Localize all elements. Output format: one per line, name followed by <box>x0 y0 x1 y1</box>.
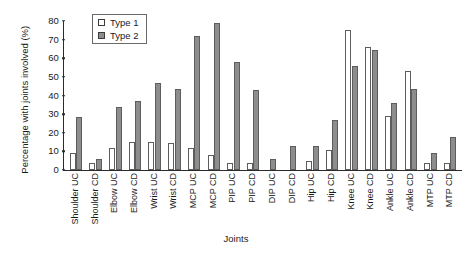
chart-legend: Type 1 Type 2 <box>92 14 147 44</box>
bar-type-2 <box>332 120 338 170</box>
bar-type-2 <box>411 89 417 170</box>
bar-group <box>421 21 441 170</box>
x-axis-tick-label: MCP CD <box>208 173 217 208</box>
bar-type-1 <box>306 161 312 170</box>
legend-swatch-type-1 <box>98 19 105 26</box>
y-axis-tick: 60 <box>42 54 64 64</box>
legend-label-type-2: Type 2 <box>110 31 139 41</box>
bar-type-1 <box>424 163 430 170</box>
y-axis-tick-label: 10 <box>42 147 62 157</box>
x-axis-tick-label-slot: PIP CD <box>242 173 262 229</box>
x-axis-tick-label-slot: MTP CD <box>439 173 459 229</box>
x-axis-tick-labels: Shoulder UCShoulder CDElbow UCElbow CDWr… <box>63 173 461 229</box>
x-axis-tick-label-slot: MCP CD <box>203 173 223 229</box>
bar-type-2 <box>194 36 200 170</box>
x-axis-tick-label-slot: Elbow CD <box>124 173 144 229</box>
bar-type-2 <box>214 23 220 170</box>
bar-type-2 <box>175 89 181 170</box>
bar-type-2 <box>96 159 102 170</box>
bar-group <box>401 21 421 170</box>
y-axis-tick: 40 <box>42 91 64 101</box>
x-axis-tick-label-slot: Wrist CD <box>164 173 184 229</box>
bar-type-1 <box>405 71 411 170</box>
bar-group <box>66 21 86 170</box>
bar-type-1 <box>109 148 115 170</box>
x-axis-tick-label: Shoulder UC <box>70 173 79 225</box>
x-axis-tick-label: DIP CD <box>287 173 296 203</box>
y-axis-tick-label: 20 <box>42 128 62 138</box>
x-axis-tick-label: MTP UC <box>425 173 434 207</box>
bar-type-2 <box>253 90 259 170</box>
bar-group <box>381 21 401 170</box>
x-axis-tick-label-slot: Elbow UC <box>104 173 124 229</box>
x-axis-tick-label: Knee UC <box>346 173 355 210</box>
x-axis-tick-label-slot: DIP CD <box>282 173 302 229</box>
bar-type-1 <box>148 142 154 170</box>
x-axis-tick-label-slot: Hip UC <box>301 173 321 229</box>
bar-type-1 <box>385 116 391 170</box>
bar-group <box>243 21 263 170</box>
x-axis-tick-label-slot: Knee CD <box>361 173 381 229</box>
x-axis-tick-label: Elbow UC <box>110 173 119 213</box>
x-axis-tick-label: DIP UC <box>267 173 276 203</box>
y-axis-tick: 10 <box>42 147 64 157</box>
y-axis-tick-label: 80 <box>42 16 62 26</box>
bar-group <box>342 21 362 170</box>
y-axis-tick-label: 40 <box>42 91 62 101</box>
y-axis-tick: 20 <box>42 128 64 138</box>
x-axis-tick-label-slot: DIP UC <box>262 173 282 229</box>
bar-group <box>165 21 185 170</box>
y-axis-tick-label: 60 <box>42 54 62 64</box>
bar-type-1 <box>227 163 233 170</box>
bar-group <box>204 21 224 170</box>
x-axis-tick-label: Hip UC <box>307 173 316 202</box>
y-axis-tick: 0 <box>42 165 64 175</box>
bar-type-1 <box>208 155 214 170</box>
bar-type-2 <box>450 137 456 170</box>
y-axis-tick-label: 50 <box>42 72 62 82</box>
x-axis-tick-label: Ankle UC <box>386 173 395 211</box>
legend-label-type-1: Type 1 <box>110 18 139 28</box>
y-axis-tick: 50 <box>42 72 64 82</box>
y-axis-tick: 70 <box>42 35 64 45</box>
bar-group <box>224 21 244 170</box>
y-axis-tick: 80 <box>42 16 64 26</box>
x-axis-tick-label-slot: PIP UC <box>223 173 243 229</box>
x-axis-tick-label-slot: Hip CD <box>321 173 341 229</box>
x-axis-tick-label-slot: Shoulder CD <box>85 173 105 229</box>
legend-item-type-2: Type 2 <box>98 31 139 41</box>
bar-type-2 <box>76 117 82 170</box>
bar-type-2 <box>372 50 378 170</box>
bar-type-1 <box>129 142 135 170</box>
x-axis-tick-label: Elbow CD <box>129 173 138 213</box>
x-axis-tick-label: MCP UC <box>189 173 198 208</box>
bar-chart: Percentage with joints involved (%) 0102… <box>0 0 472 261</box>
x-axis-tick-label: MTP CD <box>445 173 454 207</box>
bar-type-1 <box>444 163 450 170</box>
bar-group <box>302 21 322 170</box>
bar-type-2 <box>431 153 437 170</box>
x-axis-tick-label-slot: Knee UC <box>341 173 361 229</box>
bar-group <box>440 21 460 170</box>
bar-type-2 <box>116 107 122 170</box>
x-axis-tick-label: PIP UC <box>228 173 237 203</box>
y-axis-tick-label: 30 <box>42 109 62 119</box>
x-axis-tick-label: Ankle CD <box>405 173 414 211</box>
bar-group <box>362 21 382 170</box>
x-axis-tick-label-slot: Ankle CD <box>400 173 420 229</box>
y-axis-title: Percentage with joints involved (%) <box>20 15 30 185</box>
y-axis-tick: 30 <box>42 109 64 119</box>
x-axis-tick-label: Shoulder CD <box>90 173 99 225</box>
bar-type-1 <box>247 163 253 170</box>
bar-type-2 <box>270 159 276 170</box>
bar-type-2 <box>391 103 397 170</box>
bar-group <box>184 21 204 170</box>
bar-group <box>322 21 342 170</box>
x-axis-title: Joints <box>0 234 472 244</box>
bar-type-2 <box>313 146 319 170</box>
bar-group <box>145 21 165 170</box>
y-axis-tick-label: 0 <box>42 165 62 175</box>
y-axis-tick-label: 70 <box>42 35 62 45</box>
x-axis-tick-label-slot: Ankle UC <box>380 173 400 229</box>
legend-item-type-1: Type 1 <box>98 18 139 28</box>
